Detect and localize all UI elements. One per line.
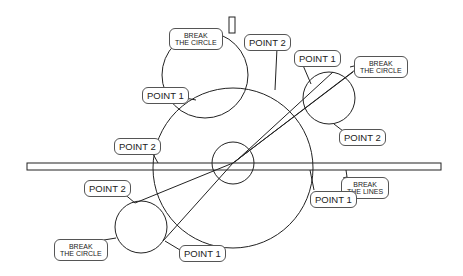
tangent-line — [235, 72, 333, 162]
tangent-line — [233, 70, 355, 163]
bottom-left-circle — [115, 201, 167, 253]
label-point2-top: POINT 2 — [244, 34, 291, 51]
vertical-stem — [229, 17, 235, 33]
label-point2-left: POINT 2 — [114, 138, 161, 155]
label-point1-right: POINT 1 — [294, 50, 341, 67]
label-point1-top: POINT 1 — [142, 87, 189, 104]
horizontal-bar — [27, 163, 441, 170]
label-point2-right: POINT 2 — [339, 129, 386, 146]
right-circle — [303, 72, 355, 124]
tangent-line — [163, 163, 233, 241]
leader-line — [275, 48, 277, 90]
leader-line — [165, 241, 180, 250]
label-point2-bottom-left: POINT 2 — [84, 180, 131, 197]
label-point1-large: POINT 1 — [310, 191, 357, 208]
label-break-circle-right: BREAK THE CIRCLE — [354, 56, 408, 78]
diagram-canvas — [0, 0, 463, 276]
label-break-circle-bottom-left: BREAK THE CIRCLE — [54, 239, 108, 261]
label-break-circle-top: BREAK THE CIRCLE — [169, 28, 223, 50]
label-point1-bottom-left: POINT 1 — [179, 245, 226, 262]
